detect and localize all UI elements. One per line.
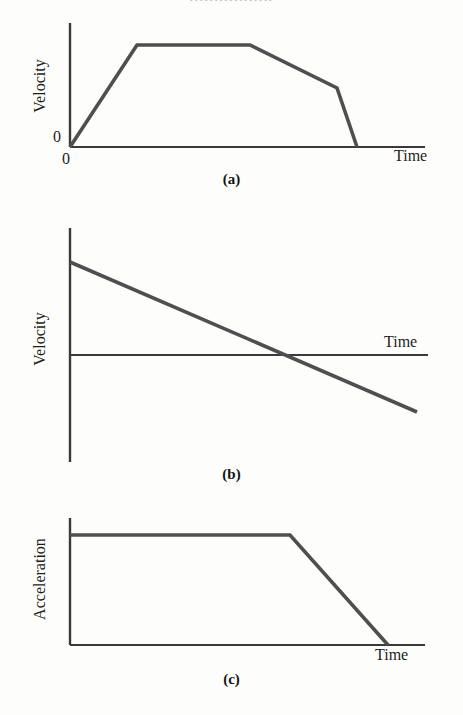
chart-b-velocity-line	[70, 262, 417, 412]
chart-panel-a: 0 0 Velocity Time (a)	[0, 0, 463, 200]
chart-a-origin-y-label: 0	[53, 128, 61, 146]
chart-c-caption: (c)	[0, 671, 463, 688]
chart-a-svg	[0, 0, 463, 200]
chart-c-y-axis-label: Acceleration	[31, 518, 49, 640]
chart-panel-b: Velocity Time (b)	[0, 200, 463, 480]
chart-a-y-axis-label: Velocity	[31, 43, 49, 129]
chart-b-y-axis-label: Velocity	[31, 296, 49, 382]
chart-a-origin-x-label: 0	[62, 150, 70, 168]
figure-page: ................. 0 0 Velocity Time (a) …	[0, 0, 463, 715]
chart-c-acceleration-curve	[70, 535, 388, 645]
chart-c-x-axis-label: Time	[375, 646, 408, 664]
chart-panel-c: Acceleration Time (c)	[0, 480, 463, 715]
chart-a-caption: (a)	[0, 171, 463, 188]
chart-a-x-axis-label: Time	[394, 147, 427, 165]
chart-b-x-axis-label: Time	[384, 333, 417, 351]
chart-a-velocity-curve	[70, 45, 357, 147]
